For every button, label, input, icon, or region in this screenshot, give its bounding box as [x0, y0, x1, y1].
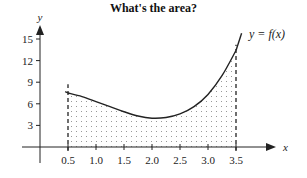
- y-tick-label: 3: [28, 119, 34, 131]
- dotted-fill: [68, 51, 236, 147]
- shaded-area: [68, 51, 236, 147]
- x-tick-label: 3.5: [229, 154, 243, 166]
- curve-label: y = f(x): [248, 27, 285, 41]
- y-tick-label: 9: [28, 76, 34, 88]
- x-tick-label: 1.0: [89, 154, 103, 166]
- y-axis-arrow-icon: [36, 25, 44, 35]
- x-tick-label: 2.0: [145, 154, 159, 166]
- x-axis-arrow-icon: [266, 143, 276, 151]
- y-tick-label: 6: [28, 98, 34, 110]
- x-tick-label: 0.5: [61, 154, 75, 166]
- x-axis-label: x: [282, 141, 288, 153]
- y-tick-label: 15: [22, 33, 34, 45]
- y-tick-label: 12: [22, 55, 33, 67]
- plot-area: 0.51.01.52.02.53.03.53691215 yxy = f(x): [0, 0, 307, 178]
- area-under-curve-chart: What's the area? 0.51.01.52.02.53.03.536…: [0, 0, 307, 178]
- curve-right-ext: [236, 33, 242, 50]
- x-tick-label: 3.0: [201, 154, 215, 166]
- x-tick-label: 1.5: [117, 154, 131, 166]
- chart-title: What's the area?: [0, 1, 307, 16]
- x-tick-label: 2.5: [173, 154, 187, 166]
